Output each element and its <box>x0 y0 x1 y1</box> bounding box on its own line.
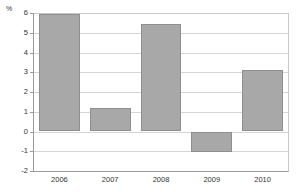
y-axis-tick-label: -2 <box>21 167 28 175</box>
y-axis-tick-label: 6 <box>24 9 28 17</box>
y-axis-tick-label: 5 <box>24 29 28 37</box>
y-axis-tick-label: 0 <box>24 128 28 136</box>
x-axis-tick-label: 2009 <box>203 176 220 184</box>
plot-area: 6543210-1-2 20062007200820092010 <box>33 13 289 172</box>
bar <box>39 14 80 132</box>
bar-chart: % 6543210-1-2 20062007200820092010 <box>0 0 303 196</box>
bars-layer <box>34 13 288 171</box>
y-axis-tick-label: -1 <box>21 147 28 155</box>
bar <box>242 70 283 131</box>
x-axis-tick-label: 2007 <box>102 176 119 184</box>
bar <box>191 132 232 153</box>
y-axis-unit-label: % <box>6 5 12 12</box>
bar <box>141 24 182 132</box>
y-axis-tick-label: 1 <box>24 108 28 116</box>
x-axis-tick-label: 2010 <box>254 176 271 184</box>
y-axis-tick-label: 2 <box>24 88 28 96</box>
y-axis-tick-label: 3 <box>24 68 28 76</box>
bar <box>90 108 131 132</box>
y-axis-tick-label: 4 <box>24 49 28 57</box>
x-axis-tick-label: 2008 <box>153 176 170 184</box>
x-axis-tick-label: 2006 <box>51 176 68 184</box>
y-axis-tick-mark <box>30 171 34 172</box>
